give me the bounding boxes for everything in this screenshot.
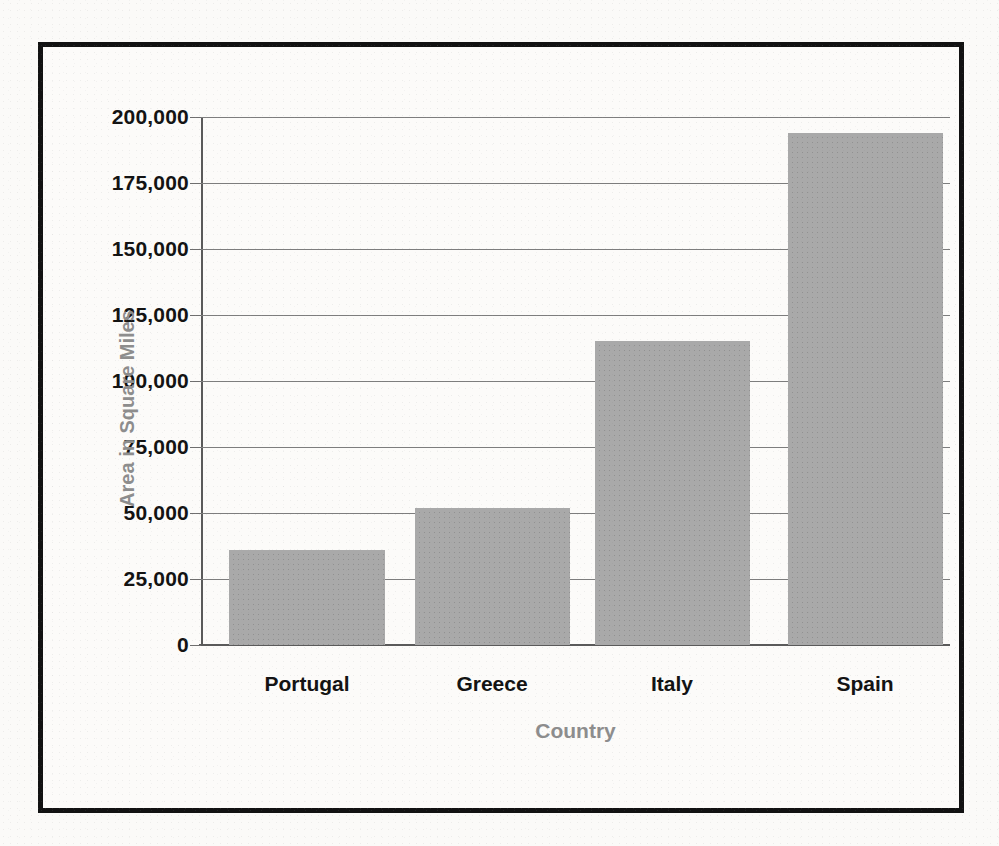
y-tick-mark-25000 [190,579,201,580]
y-tick-label-200000: 200,000 [112,105,189,129]
bar-chart: 0 25,000 50,000 75,000 100,000 125,000 1… [43,47,959,808]
y-tick-mark-75000 [190,447,201,448]
bar-portugal[interactable] [229,550,385,645]
figure-frame: 0 25,000 50,000 75,000 100,000 125,000 1… [38,42,964,813]
y-tick-label-0: 0 [177,633,189,657]
bar-greece[interactable] [415,508,570,645]
y-tick-label-175000: 175,000 [112,171,189,195]
x-tick-label-italy: Italy [572,672,772,696]
x-tick-label-spain: Spain [765,672,965,696]
y-tick-mark-0 [190,645,201,646]
page-background: 0 25,000 50,000 75,000 100,000 125,000 1… [0,0,999,846]
x-axis-tick-labels: Portugal Greece Italy Spain [201,672,950,706]
y-axis-title-wrapper: Area in Square Miles [85,197,125,577]
y-tick-mark-125000 [190,315,201,316]
y-tick-mark-50000 [190,513,201,514]
bar-spain[interactable] [788,133,943,645]
bar-italy[interactable] [595,341,750,645]
x-axis-title: Country [201,719,950,743]
y-tick-mark-100000 [190,381,201,382]
plot-area [201,117,950,645]
x-tick-label-portugal: Portugal [207,672,407,696]
y-axis-title: Area in Square Miles [116,219,139,599]
gridline-200000 [201,117,950,118]
y-tick-mark-175000 [190,183,201,184]
y-tick-mark-200000 [190,117,201,118]
y-tick-mark-150000 [190,249,201,250]
x-tick-label-greece: Greece [392,672,592,696]
